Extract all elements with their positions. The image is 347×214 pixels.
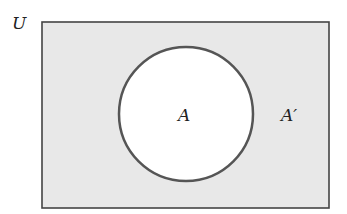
venn-diagram: U A A′ [0, 0, 347, 214]
complement-label: A′ [279, 105, 297, 125]
set-a-label: A [176, 105, 190, 125]
universe-label: U [12, 13, 27, 33]
